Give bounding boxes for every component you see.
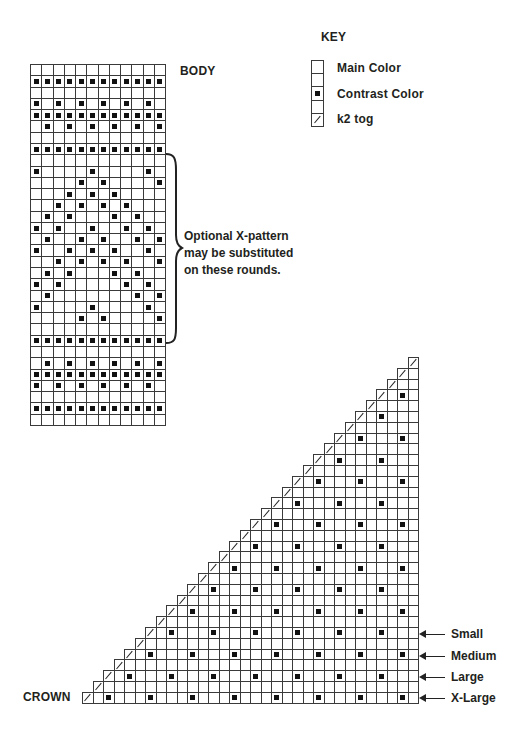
k2tog-icon — [305, 467, 312, 475]
contrast-stitch-icon — [124, 147, 129, 152]
contrast-stitch-icon — [316, 652, 321, 657]
crown-stitch — [408, 670, 420, 682]
contrast-stitch-icon — [157, 79, 162, 84]
contrast-stitch-icon — [135, 113, 140, 118]
contrast-stitch-icon — [45, 79, 50, 84]
contrast-stitch-icon — [67, 361, 72, 366]
body-title: BODY — [180, 64, 215, 78]
contrast-stitch-icon — [190, 652, 195, 657]
contrast-stitch-icon — [45, 372, 50, 377]
contrast-stitch-icon — [135, 293, 140, 298]
contrast-stitch-icon — [358, 479, 363, 484]
contrast-stitch-icon — [124, 383, 129, 388]
crown-stitch — [408, 605, 420, 617]
contrast-stitch-icon — [34, 406, 39, 411]
k2tog-icon — [105, 672, 112, 680]
contrast-stitch-icon — [274, 566, 279, 571]
contrast-stitch-icon — [190, 695, 195, 700]
contrast-stitch-icon — [90, 361, 95, 366]
contrast-stitch-icon — [148, 652, 153, 657]
contrast-stitch-icon — [67, 147, 72, 152]
k2tog-icon — [399, 370, 406, 378]
contrast-stitch-icon — [34, 338, 39, 343]
crown-stitch — [408, 454, 420, 466]
size-marker-x-large: X-Large — [419, 692, 496, 704]
contrast-stitch-icon — [379, 544, 384, 549]
contrast-stitch-icon — [253, 674, 258, 679]
contrast-stitch-icon — [79, 101, 84, 106]
contrast-stitch-icon — [79, 259, 84, 264]
crown-stitch — [408, 400, 420, 412]
contrast-stitch-icon — [232, 566, 237, 571]
contrast-stitch-icon — [112, 372, 117, 377]
contrast-stitch-icon — [358, 436, 363, 441]
contrast-stitch-icon — [124, 226, 129, 231]
contrast-stitch-icon — [112, 361, 117, 366]
k2tog-icon — [221, 553, 228, 561]
contrast-stitch-icon — [112, 124, 117, 129]
contrast-stitch-icon — [146, 305, 151, 310]
contrast-stitch-icon — [232, 652, 237, 657]
contrast-stitch-icon — [135, 237, 140, 242]
contrast-stitch-icon — [358, 566, 363, 571]
crown-stitch — [408, 541, 420, 553]
contrast-stitch-icon — [400, 652, 405, 657]
contrast-stitch-icon — [124, 372, 129, 377]
contrast-stitch-icon — [157, 147, 162, 152]
crown-stitch — [408, 476, 420, 488]
contrast-stitch-icon — [45, 338, 50, 343]
k2tog-icon — [273, 499, 280, 507]
k2tog-icon — [95, 683, 102, 691]
contrast-stitch-icon — [112, 113, 117, 118]
note-line-2: may be substituted — [184, 245, 293, 262]
contrast-stitch-icon — [45, 113, 50, 118]
contrast-stitch-icon — [358, 522, 363, 527]
crown-stitch — [408, 443, 420, 455]
contrast-stitch-icon — [101, 101, 106, 106]
contrast-stitch-icon — [316, 609, 321, 614]
contrast-stitch-icon — [90, 406, 95, 411]
contrast-stitch-icon — [157, 237, 162, 242]
k2tog-icon — [126, 651, 133, 659]
contrast-stitch-icon — [56, 338, 61, 343]
contrast-stitch-icon — [157, 316, 162, 321]
contrast-stitch-icon — [101, 180, 106, 185]
contrast-stitch-icon — [101, 259, 106, 264]
k2tog-icon — [284, 489, 291, 497]
contrast-stitch-icon — [135, 372, 140, 377]
contrast-stitch-icon — [146, 113, 151, 118]
crown-stitch — [408, 508, 420, 520]
contrast-stitch-icon — [253, 630, 258, 635]
key-main-color-label: Main Color — [337, 61, 401, 75]
contrast-stitch-icon — [90, 305, 95, 310]
contrast-stitch-icon — [135, 271, 140, 276]
contrast-stitch-icon — [400, 609, 405, 614]
contrast-stitch-icon — [124, 203, 129, 208]
contrast-stitch-icon — [124, 101, 129, 106]
contrast-stitch-icon — [79, 237, 84, 242]
key-cell — [311, 73, 324, 87]
contrast-stitch-icon — [79, 79, 84, 84]
contrast-stitch-icon — [146, 383, 151, 388]
crown-stitch — [408, 551, 420, 563]
crown-stitch — [408, 627, 420, 639]
contrast-stitch-icon — [34, 282, 39, 287]
contrast-stitch-icon — [101, 203, 106, 208]
contrast-stitch-icon — [45, 214, 50, 219]
contrast-stitch-icon — [90, 226, 95, 231]
contrast-stitch-icon — [34, 248, 39, 253]
crown-stitch — [408, 659, 420, 671]
contrast-stitch-icon — [400, 479, 405, 484]
contrast-stitch-icon — [157, 124, 162, 129]
contrast-stitch-icon — [135, 124, 140, 129]
contrast-stitch-icon — [146, 282, 151, 287]
contrast-stitch-icon — [67, 372, 72, 377]
contrast-stitch-icon — [135, 214, 140, 219]
contrast-stitch-icon — [124, 282, 129, 287]
crown-stitch — [408, 616, 420, 628]
contrast-stitch-icon — [79, 113, 84, 118]
contrast-stitch-icon — [101, 406, 106, 411]
contrast-stitch-icon — [34, 147, 39, 152]
contrast-stitch-icon — [124, 406, 129, 411]
contrast-stitch-icon — [148, 695, 153, 700]
